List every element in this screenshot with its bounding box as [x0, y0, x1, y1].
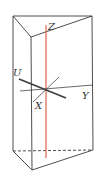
- edge-top-right: [31, 16, 92, 37]
- label-x: X: [34, 100, 43, 111]
- edge-vertical-front: [31, 37, 32, 170]
- edge-vertical-right: [92, 16, 93, 150]
- prism-diagram: Z U Y X: [0, 0, 103, 180]
- edge-bottom-back-hidden: [13, 150, 93, 151]
- u-axis: [19, 79, 66, 98]
- edge-bottom-left: [13, 151, 32, 170]
- label-z: Z: [47, 21, 56, 32]
- label-y: Y: [82, 90, 90, 101]
- label-u: U: [13, 67, 22, 78]
- edge-bottom-right: [32, 150, 93, 170]
- edge-top-left: [13, 16, 31, 37]
